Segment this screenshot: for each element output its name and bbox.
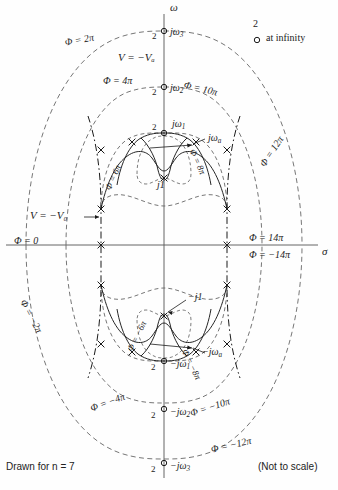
legend-zero-marker — [254, 37, 259, 42]
label-jw2: jω2 — [170, 83, 183, 95]
pole-right-lower — [224, 341, 231, 348]
label-jw3-text: jω — [170, 26, 180, 37]
label-minus-j1: −j1 — [188, 292, 203, 302]
multiplicity-minus-jw1: 2 — [151, 363, 156, 372]
multiplicity-minus-jw3: 2 — [151, 465, 156, 474]
label-jw3: jω3 — [170, 27, 183, 39]
multiplicity-jw3: 2 — [152, 32, 157, 41]
potential-inner-label: V = −Vₐ — [118, 52, 155, 63]
label-minus-jw3: −jω3 — [170, 461, 190, 473]
label-jw1: jω1 — [172, 119, 185, 131]
field-map-svg — [0, 0, 338, 490]
phi-4pi-label: Φ = 4π — [103, 76, 132, 86]
pole-right-upper — [224, 147, 231, 154]
label-jwa-text: jω — [208, 132, 218, 143]
caption-drawn-for: Drawn for n = 7 — [6, 462, 75, 472]
label-minus-jw3-sub: 3 — [187, 465, 191, 473]
pole-jwa-left — [129, 139, 136, 146]
label-minus-jw3-text: −jω — [170, 460, 187, 471]
label-minus-jw2: −jω2 — [170, 407, 190, 419]
legend-count: 2 — [253, 19, 258, 29]
pole-left-upper — [98, 147, 105, 154]
phi-14pi-label: Φ = 14π — [249, 233, 283, 243]
phi-minus-14pi-label: Φ = −14π — [249, 250, 290, 260]
label-j1: j1 — [157, 180, 165, 190]
label-jw1-text: jω — [172, 118, 182, 129]
axis-label-sigma: σ — [322, 246, 327, 257]
phi-0-label: Φ = 0 — [14, 236, 38, 246]
leader-arrow-down — [150, 344, 192, 348]
label-minus-jwa-sub: a — [219, 351, 223, 359]
label-jwa-sub: a — [218, 137, 222, 145]
label-minus-jw2-text: −jω — [170, 406, 187, 417]
figure-canvas: ω σ 2 at infinity V = −Vₐ V = −V₀ 2 jω3 … — [0, 0, 338, 490]
label-minus-jwa-text: −jω — [202, 346, 219, 357]
caption-not-to-scale: (Not to scale) — [258, 462, 317, 472]
multiplicity-jw2: 2 — [152, 88, 157, 97]
legend-text: at infinity — [266, 33, 305, 43]
label-jw1-sub: 1 — [182, 123, 186, 131]
multiplicity-jw1: 2 — [152, 123, 157, 132]
multiplicity-minus-jw2: 2 — [151, 411, 156, 420]
label-jw3-sub: 3 — [180, 31, 184, 39]
label-jwa: jωa — [208, 133, 221, 145]
axis-label-omega: ω — [170, 2, 178, 13]
pole-left-lower — [98, 341, 105, 348]
axes — [6, 14, 318, 478]
label-jw2-text: jω — [170, 82, 180, 93]
label-minus-jwa: −jωa — [202, 347, 222, 359]
potential-outer-label: V = −V₀ — [30, 210, 67, 221]
leader-arrow-up — [150, 145, 192, 148]
